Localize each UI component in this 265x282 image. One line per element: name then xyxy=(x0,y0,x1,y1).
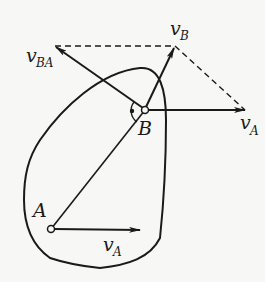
velocity-diagram: B A v B v BA v A v A xyxy=(0,0,265,282)
vector-vBA xyxy=(56,47,143,108)
vector-vA-at-A xyxy=(54,229,140,230)
vector-vB xyxy=(146,48,174,107)
svg-text:A: A xyxy=(249,124,259,138)
point-b-marker xyxy=(142,107,149,114)
svg-text:B: B xyxy=(179,29,189,43)
svg-text:A: A xyxy=(112,245,122,259)
diagram-svg: B A v B v BA v A v A xyxy=(0,0,265,282)
line-ab xyxy=(51,110,145,229)
dashed-line-right xyxy=(175,46,245,110)
label-vB: v B xyxy=(170,17,189,43)
label-point-a: A xyxy=(31,199,47,221)
label-vBA: v BA xyxy=(26,44,54,70)
right-angle-dot xyxy=(130,109,134,113)
point-a-marker xyxy=(48,226,55,233)
label-point-b: B xyxy=(137,117,152,139)
label-vA-at-A: v A xyxy=(103,233,122,259)
rigid-body-outline xyxy=(24,68,166,268)
svg-text:BA: BA xyxy=(35,56,54,70)
label-vA-at-B: v A xyxy=(240,111,259,138)
